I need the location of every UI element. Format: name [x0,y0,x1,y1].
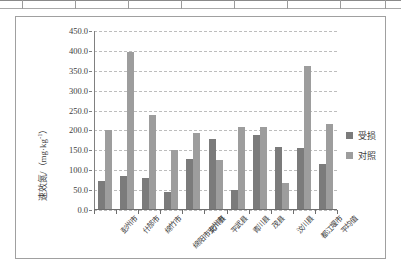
bar-shousun [231,190,238,210]
bar-shousun [164,192,171,210]
bar-duizhao [127,52,134,210]
bar-shousun [319,164,326,210]
y-axis-tick-mark [89,150,92,151]
table-column-divider [340,0,341,9]
table-column-divider [181,0,182,9]
x-axis-category-label: 青川县 [249,213,272,236]
table-border-fragment [0,0,401,10]
table-column-divider [385,0,386,9]
chart-legend: 受损对照 [346,129,401,169]
y-axis-tick-label: 250.0 [69,106,88,115]
table-column-divider [75,0,76,9]
bar-group [182,31,204,210]
x-axis-category-label: 什邡市 [139,213,162,236]
bar-duizhao [149,115,156,210]
bar-duizhao [304,66,311,210]
y-axis-tick-mark [89,170,92,171]
bar-group [293,31,315,210]
legend-swatch-icon [346,152,353,159]
y-axis-tick-label: 400.0 [69,46,88,55]
chart-screenshot: 速效氮/（mg·kg-1） 0.050.0100.0150.0200.0250.… [0,0,401,273]
bar-group [315,31,337,210]
bar-group [204,31,226,210]
bar-duizhao [171,150,178,210]
bar-group [160,31,182,210]
x-axis-category-label: 汶川县 [293,213,316,236]
bar-duizhao [260,127,267,210]
table-column-divider [234,0,235,9]
bar-duizhao [282,183,289,210]
bar-shousun [209,139,216,210]
bar-groups [94,31,337,210]
bar-duizhao [216,160,223,210]
legend-item[interactable]: 受损 [346,129,401,142]
bar-duizhao [193,133,200,210]
bar-duizhao [326,124,333,210]
x-axis-category-label: 平武县 [227,213,250,236]
bar-shousun [253,135,260,210]
y-axis-tick-label: 150.0 [69,146,88,155]
plot-area [94,31,337,210]
bar-group [227,31,249,210]
y-axis-tick-label: 350.0 [69,66,88,75]
bar-duizhao [238,127,245,210]
y-axis-tick-label: 200.0 [69,126,88,135]
bar-duizhao [105,130,112,210]
chart-frame: 速效氮/（mg·kg-1） 0.050.0100.0150.0200.0250.… [15,16,386,259]
y-axis-tick-mark [89,190,92,191]
y-axis-tick-label: 450.0 [69,27,88,36]
bar-shousun [297,148,304,210]
y-axis-tick-labels: 0.050.0100.0150.0200.0250.0300.0350.0400… [16,17,92,196]
y-axis-tick-label: 300.0 [69,86,88,95]
table-column-divider [128,0,129,9]
x-axis-category-labels: 彭州市什邡市绵竹市绵阳市安州市北川县平武县青川县茂县汶川县都江堰市平均值 [94,210,337,262]
bar-shousun [98,181,105,210]
y-axis-tick-mark [89,31,92,32]
x-axis-category-label: 茂县 [269,213,287,231]
bar-group [271,31,293,210]
y-axis-tick-label: 0.0 [77,206,88,215]
y-axis-tick-mark [89,111,92,112]
bar-shousun [275,147,282,210]
x-axis-category-label: 彭州市 [117,213,140,236]
y-axis-tick-label: 100.0 [69,166,88,175]
table-column-divider [22,0,23,9]
y-axis-tick-mark [89,51,92,52]
table-column-divider [287,0,288,9]
bar-group [249,31,271,210]
y-axis-tick-label: 50.0 [73,186,88,195]
y-axis-tick-mark [89,71,92,72]
y-axis-tick-mark [89,130,92,131]
bar-shousun [120,176,127,210]
bar-shousun [186,159,193,210]
y-axis-tick-mark [89,91,92,92]
bar-group [116,31,138,210]
x-axis-category-label: 绵竹市 [161,213,184,236]
legend-item-label: 受损 [358,129,376,142]
legend-item[interactable]: 对照 [346,149,401,162]
legend-item-label: 对照 [358,149,376,162]
y-axis-tick-mark [89,210,92,211]
bar-group [94,31,116,210]
legend-swatch-icon [346,132,353,139]
bar-group [138,31,160,210]
bar-shousun [142,178,149,210]
